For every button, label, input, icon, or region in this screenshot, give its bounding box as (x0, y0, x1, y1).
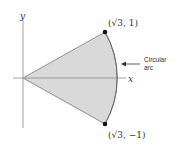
point-top-label: (√3, 1) (108, 18, 138, 28)
x-axis-label: x (128, 74, 133, 84)
point-bottom-label: (√3, −1) (108, 130, 145, 140)
point-bottom (103, 122, 108, 127)
annotation-line2: arc (144, 64, 154, 71)
annotation-line1: Circular (144, 56, 167, 63)
point-top (103, 30, 108, 35)
y-axis-label: y (19, 11, 26, 21)
sector-diagram: y x (√3, 1) (√3, −1) Circular arc (0, 0, 179, 144)
arrowhead-icon (121, 62, 126, 67)
